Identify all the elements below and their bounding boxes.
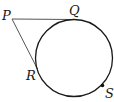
label-s: S <box>105 87 114 100</box>
label-r: R <box>26 69 36 82</box>
label-p: P <box>2 9 11 22</box>
label-q: Q <box>69 4 80 17</box>
geometry-diagram: P Q R S <box>0 0 114 102</box>
point-s-dot <box>101 84 105 88</box>
diagram-canvas <box>0 0 114 102</box>
tangent-segment-pr <box>12 19 38 69</box>
tangent-segment-pq <box>12 19 73 20</box>
